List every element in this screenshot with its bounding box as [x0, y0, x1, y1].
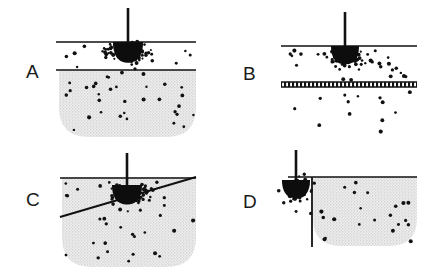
particle-dot	[131, 233, 134, 236]
panel-label-a: A	[26, 61, 39, 82]
cluster-dot	[148, 199, 151, 202]
cluster-dot	[310, 190, 313, 193]
cluster-dot	[299, 199, 302, 202]
cluster-dot	[313, 181, 316, 184]
particle-dot	[407, 223, 410, 226]
cluster-dot	[298, 175, 300, 177]
cluster-dot	[364, 62, 366, 64]
particle-dot-leak	[319, 97, 322, 100]
particle-dot	[142, 97, 146, 101]
cluster-dot	[113, 58, 115, 60]
particle-dot	[66, 194, 69, 197]
cluster-dot	[289, 200, 292, 203]
particle-dot	[98, 217, 101, 220]
particle-dot	[144, 231, 147, 234]
particle-dot	[120, 71, 124, 75]
particle-dot	[158, 255, 161, 258]
cluster-dot	[147, 51, 150, 54]
cluster-dot	[348, 65, 351, 68]
particle-dot	[295, 210, 298, 213]
particle-dot	[83, 45, 87, 49]
figure-root: ABCD	[0, 0, 435, 271]
particle-dot	[98, 184, 102, 188]
cluster-dot	[141, 54, 144, 57]
cluster-dot	[146, 192, 148, 194]
particle-dot	[118, 208, 122, 212]
cluster-dot	[150, 49, 152, 51]
particle-dot	[163, 82, 167, 86]
cluster-dot	[332, 61, 335, 64]
particle-dot	[65, 93, 69, 97]
particle-dot	[343, 186, 346, 189]
particle-dot	[366, 53, 369, 56]
particle-dot	[64, 182, 67, 185]
particle-dot	[69, 89, 72, 92]
particle-dot	[309, 212, 312, 215]
particle-dot	[108, 181, 111, 184]
particle-dot	[115, 85, 118, 88]
cluster-dot	[109, 47, 113, 51]
cluster-dot	[144, 184, 147, 187]
cluster-dot	[109, 43, 111, 45]
panel-label-d: D	[243, 191, 257, 212]
particle-dot	[373, 218, 376, 221]
particle-dot-leak	[378, 96, 381, 99]
particle-dot-leak	[394, 111, 397, 114]
cluster-dot	[144, 54, 147, 57]
particle-dot	[338, 68, 341, 71]
particle-dot	[119, 114, 123, 118]
particle-dot	[172, 229, 176, 233]
cluster-dot	[150, 187, 153, 190]
particle-dot	[366, 191, 369, 194]
particle-dot	[389, 213, 392, 216]
particle-dot	[102, 217, 106, 221]
particle-dot	[65, 55, 69, 59]
particle-dot	[119, 226, 122, 229]
medium-region-d	[313, 177, 417, 246]
particle-dot-leak	[381, 100, 385, 104]
particle-dot	[291, 54, 294, 57]
particle-dot	[100, 111, 103, 114]
particle-dot	[387, 56, 390, 59]
particle-dot-leak	[317, 123, 321, 127]
particle-dot	[397, 223, 400, 226]
cluster-dot	[104, 56, 107, 59]
cluster-dot	[149, 196, 152, 199]
particle-dot	[107, 76, 110, 79]
medium-region-a	[59, 70, 196, 137]
particle-dot-leak	[348, 112, 352, 116]
cluster-dot	[103, 50, 107, 54]
particle-dot	[155, 181, 158, 184]
particle-dot-leak	[357, 95, 359, 97]
particle-dot	[172, 122, 175, 125]
particle-dot	[189, 54, 192, 57]
particle-dot	[94, 82, 98, 86]
particle-dot	[322, 52, 326, 56]
particle-dot	[374, 49, 377, 52]
cluster-dot	[360, 63, 363, 66]
particle-dot	[177, 104, 181, 108]
particle-dot-leak	[343, 94, 346, 97]
particle-dot-leak	[293, 107, 296, 110]
particle-dot	[341, 77, 345, 81]
particle-dot	[401, 201, 405, 205]
particle-dot	[133, 67, 136, 70]
particle-dot	[73, 51, 77, 55]
particle-dot	[127, 260, 130, 263]
particle-dot	[354, 181, 358, 185]
particle-dot	[132, 253, 135, 256]
particle-dot	[106, 250, 109, 253]
hatched-barrier-b	[281, 82, 417, 87]
cluster-dot	[282, 201, 285, 204]
particle-dot	[109, 87, 113, 91]
particle-dot	[332, 217, 336, 221]
particle-dot	[358, 223, 361, 226]
cluster-dot	[360, 51, 362, 53]
cluster-dot	[101, 50, 103, 52]
panel-label-c: C	[26, 189, 40, 210]
particle-dot	[76, 188, 79, 191]
particle-dot	[182, 125, 185, 128]
panel-label-b: B	[243, 63, 256, 84]
particle-dot	[358, 68, 360, 70]
particle-dot	[369, 58, 373, 62]
